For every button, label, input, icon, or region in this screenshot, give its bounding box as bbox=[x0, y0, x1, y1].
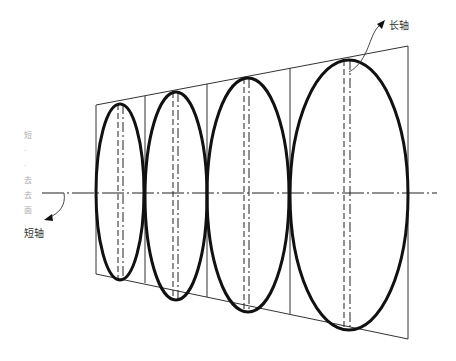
ellipse-axis-diagram bbox=[0, 0, 456, 361]
ellipse-4 bbox=[290, 60, 408, 330]
side-char: 去 bbox=[24, 173, 32, 188]
arrowhead-icon bbox=[44, 214, 53, 221]
side-char: 短 bbox=[24, 128, 32, 143]
side-char: 去 bbox=[24, 188, 32, 203]
side-char: · bbox=[24, 143, 32, 158]
short-axis-leader-arrow bbox=[48, 193, 64, 218]
long-axis-centerlines bbox=[118, 60, 350, 331]
side-char: 面 bbox=[24, 203, 32, 218]
ellipse-3 bbox=[207, 78, 289, 312]
long-axis-label: 长轴 bbox=[389, 17, 409, 32]
arrowhead-icon bbox=[377, 20, 385, 29]
ellipse-1 bbox=[96, 104, 144, 280]
side-char: · bbox=[24, 158, 32, 173]
faded-side-text: 短 · · 去 去 面 · bbox=[24, 128, 32, 233]
ellipse-2 bbox=[145, 92, 207, 300]
side-char: · bbox=[24, 218, 32, 233]
